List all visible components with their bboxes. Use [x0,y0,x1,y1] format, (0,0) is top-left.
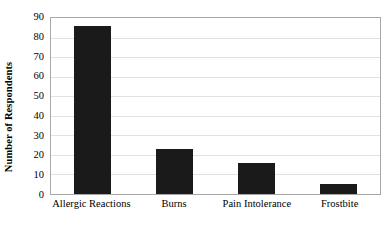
y-axis-tick-label: 60 [34,71,45,82]
y-axis-tick-label: 10 [34,170,45,181]
y-axis-tick-label: 20 [34,150,45,161]
bar-slot [133,18,215,194]
bar[interactable] [74,26,111,194]
bar-slot [216,18,298,194]
y-axis-tick-label: 0 [39,190,44,201]
x-axis-tick-label: Burns [133,198,216,210]
bar-slot [51,18,133,194]
x-axis-tick-label: Pain Intolerance [216,198,299,210]
y-axis-tick-label: 90 [34,12,45,23]
bar-slot [298,18,380,194]
y-axis-title: Number of Respondents [0,0,16,234]
y-axis-tick-label: 50 [34,91,45,102]
bar-chart: Number of Respondents 908070605040302010… [0,0,390,234]
bar[interactable] [320,184,357,194]
y-axis-tick-label: 80 [34,32,45,43]
y-axis-tick-label: 30 [34,130,45,141]
bar[interactable] [156,149,193,194]
bar[interactable] [238,163,275,194]
y-axis-tick-label: 40 [34,111,45,122]
x-axis-tick-label: Allergic Reactions [50,198,133,210]
x-axis-tick-label: Frostbite [298,198,381,210]
plot-area [50,17,381,195]
x-axis-tick-labels: Allergic ReactionsBurnsPain IntoleranceF… [50,198,381,210]
bars-layer [51,18,380,194]
y-axis-tick-labels: 9080706050403020100 [16,17,48,195]
y-axis-tick-label: 70 [34,51,45,62]
